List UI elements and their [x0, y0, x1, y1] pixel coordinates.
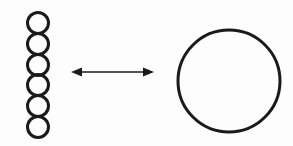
diagram-canvas [0, 0, 293, 146]
diagram-svg [0, 0, 293, 146]
